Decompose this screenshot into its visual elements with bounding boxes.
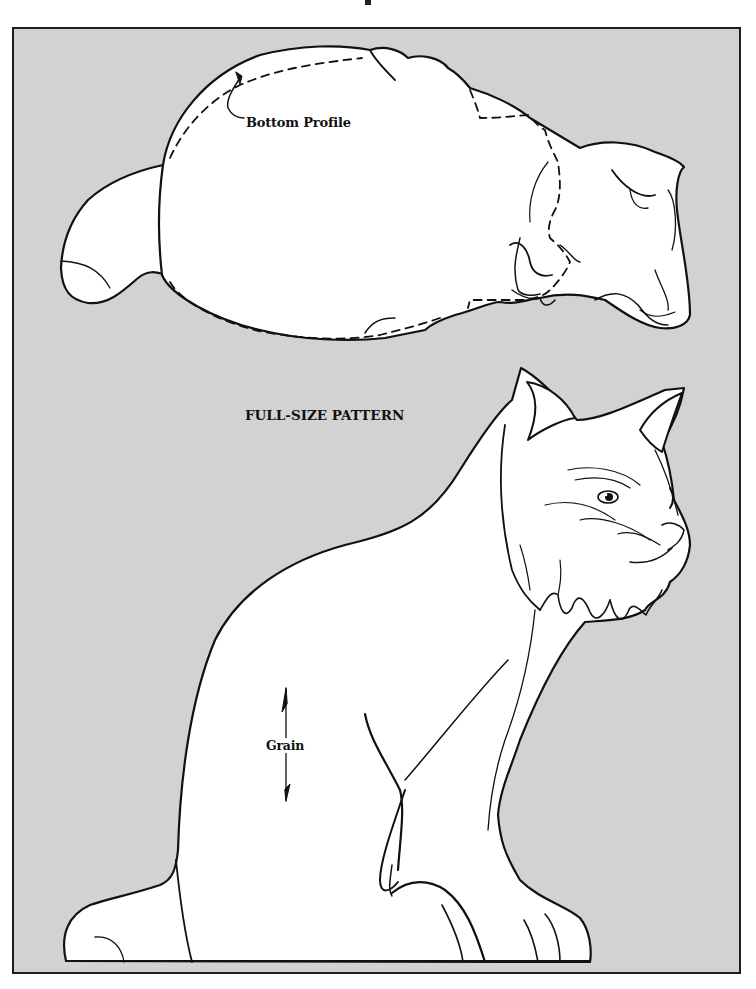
bottom-profile-label: Bottom Profile [246,115,351,130]
side-view-body [64,368,690,962]
pattern-artwork [0,0,756,989]
side-view-figure [64,368,690,962]
top-view-tail [61,165,163,303]
top-view-figure [61,46,690,340]
grain-label: Grain [265,738,305,753]
top-view-body [159,46,690,340]
pattern-title: FULL-SIZE PATTERN [245,407,404,423]
